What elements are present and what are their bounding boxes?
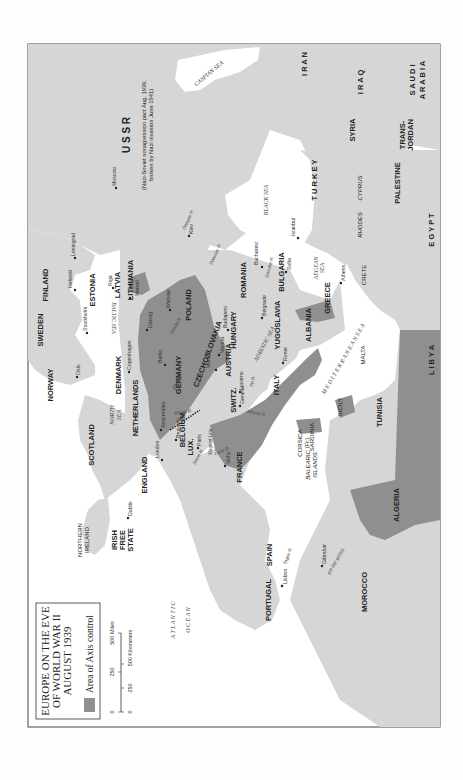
- city-amsterdam: Amsterdam: [160, 401, 166, 428]
- city-brussels: Brussels: [175, 418, 181, 438]
- label-england: ENGLAND: [140, 456, 149, 494]
- legend-title-3: AUGUST 1939: [61, 626, 73, 696]
- label-ussr: U S S R: [121, 116, 132, 153]
- label-palestine: PALESTINE: [393, 162, 402, 204]
- label-transjordan-2: JORDAN: [406, 119, 415, 151]
- label-cyprus: CYPRUS: [357, 175, 363, 200]
- label-italy: ITALY: [272, 375, 281, 395]
- city-dublin: Dublin: [127, 501, 133, 516]
- label-turkey: T U R K E Y: [310, 159, 319, 200]
- city-leningrad: Leningrad: [70, 233, 76, 256]
- sea-aegean-2: SEA: [319, 263, 325, 274]
- sea-north-1: NORTH: [109, 404, 115, 425]
- label-crete: CRETE: [361, 265, 367, 285]
- sea-black: BLACK SEA: [263, 184, 269, 215]
- label-ussr-note1: (Nazi-Soviet nonagression pact Aug. 1939…: [141, 80, 147, 190]
- label-irish-3: STATE: [126, 528, 135, 551]
- city-geneva: Geneva: [239, 386, 245, 404]
- label-saudi-1: S A U D I: [408, 64, 417, 95]
- label-saudi-2: A R A B I A: [418, 60, 427, 99]
- scale-miles-500: 500 Miles: [109, 621, 115, 645]
- label-poland: POLAND: [184, 289, 193, 321]
- scale-miles-0: 0: [109, 710, 115, 713]
- label-latvia: LATVIA: [113, 271, 122, 298]
- label-romania: ROMANIA: [239, 262, 248, 298]
- label-finland: FINLAND: [41, 268, 50, 301]
- label-greece: GREECE: [323, 282, 332, 314]
- city-warsaw: Warsaw: [165, 289, 171, 308]
- legend-axis-label: Area of Axis control: [85, 615, 95, 693]
- city-london: London: [154, 441, 160, 458]
- label-malta: MALTA: [360, 345, 366, 364]
- city-riga: Riga: [107, 275, 113, 286]
- label-iran: I R A N: [300, 52, 309, 76]
- europe-1939-map: U S S R (Nazi-Soviet nonagression pact A…: [0, 0, 463, 780]
- city-vichy: Vichy: [225, 451, 231, 464]
- label-libya: L I B Y A: [427, 344, 436, 375]
- label-estonia: ESTONIA: [88, 273, 97, 307]
- city-moscow: Moscow: [111, 167, 117, 186]
- label-albania: ALBANIA: [304, 308, 313, 342]
- city-kiev: Kiev: [188, 224, 194, 234]
- scale-km-250: 250: [127, 683, 133, 692]
- label-norway: NORWAY: [46, 369, 55, 402]
- city-belgrade: Belgrade: [261, 295, 267, 316]
- city-berlin: Berlin: [157, 350, 163, 363]
- city-paris: Paris: [196, 434, 202, 446]
- legend-axis-swatch: [84, 698, 95, 712]
- label-france: FRANCE: [235, 451, 244, 482]
- label-denmark: DENMARK: [114, 355, 123, 394]
- label-switz: SWITZ.: [229, 387, 238, 412]
- city-lisbon: Lisbon: [282, 569, 288, 584]
- label-sardinia: SARDINIA: [309, 423, 315, 451]
- scale-km-500: 500 Kilometers: [127, 629, 133, 666]
- label-netherlands: NETHERLANDS: [131, 380, 140, 437]
- label-ussr-note2: broken by Nazi invasion June 1941): [148, 89, 154, 181]
- ocean-atlantic-1: A T L A N T I C: [170, 600, 176, 639]
- label-spain: SPAIN: [265, 544, 274, 566]
- label-rhodes: RHODES: [357, 212, 363, 238]
- legend: EUROPE ON THE EVE OF WORLD WAR II AUGUST…: [36, 603, 100, 719]
- label-bulgaria: BULGARIA: [277, 252, 286, 292]
- label-iraq: I R A Q: [356, 70, 365, 95]
- city-copenhagen: Copenhagen: [126, 340, 132, 370]
- city-rome: Rome: [282, 347, 288, 361]
- label-northern-ireland-2: IRELAND: [84, 526, 90, 553]
- city-oslo: Oslo: [75, 364, 81, 375]
- sea-north-2: SEA: [116, 410, 122, 421]
- label-algeria: ALGERIA: [392, 488, 401, 522]
- scale-km-0: 0: [127, 710, 133, 713]
- ocean-atlantic-2: O C E A N: [185, 606, 191, 632]
- city-gibraltar: Gibraltar: [321, 544, 327, 564]
- label-syria: SYRIA: [348, 118, 357, 142]
- city-sofia: Sofia: [286, 258, 292, 270]
- label-morocco: MOROCCO: [360, 572, 369, 612]
- label-sweden: SWEDEN: [36, 314, 45, 347]
- scale-miles-250: 250: [109, 667, 115, 676]
- label-sicily: SICILY: [337, 398, 343, 417]
- label-scotland: SCOTLAND: [87, 424, 96, 466]
- city-munich: Munich: [205, 351, 211, 368]
- label-portugal: PORTUGAL: [264, 579, 273, 622]
- city-budapest: Budapest: [222, 306, 228, 328]
- city-memel: Memel: [134, 280, 140, 296]
- label-balearic-1: BALEARIC: [305, 449, 311, 479]
- label-hungary: HUNGARY: [229, 311, 238, 349]
- sea-baltic: BALTIC SEA: [111, 302, 117, 334]
- label-tunisia: TUNISIA: [375, 396, 384, 427]
- city-istanbul: Istanbul: [290, 218, 296, 236]
- label-northern-ireland-1: NORTHERN: [77, 523, 83, 557]
- city-stockholm: Stockholm: [82, 307, 88, 331]
- label-lux: LUX.: [186, 438, 195, 455]
- city-athens: Athens: [340, 264, 346, 281]
- label-egypt: E G Y P T: [427, 213, 436, 247]
- label-corsica: CORSICA: [297, 429, 303, 456]
- city-bucharest: Bucharest: [253, 241, 259, 265]
- label-yugoslavia: YUGOSLAVIA: [273, 300, 282, 350]
- city-danzig: Danzig: [147, 312, 153, 328]
- label-balearic-2: ISLANDS: [312, 452, 318, 478]
- city-vienna: Vienna: [219, 337, 225, 353]
- city-helsinki: Helsinki: [67, 270, 73, 288]
- label-maginot-line: Maginot Line: [208, 428, 213, 455]
